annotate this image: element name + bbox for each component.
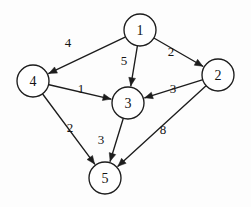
node-label-4: 4 <box>30 74 37 89</box>
node-label-5: 5 <box>102 171 109 186</box>
arrowhead-4-to-3 <box>102 94 111 101</box>
edge-weight-4-3: 1 <box>78 81 85 96</box>
node-label-3: 3 <box>125 96 132 111</box>
graph-node-5[interactable]: 5 <box>89 162 121 194</box>
edge-weight-1-4: 4 <box>65 35 72 50</box>
edge-weight-2-5: 8 <box>160 122 167 137</box>
graph-node-2[interactable]: 2 <box>202 59 234 91</box>
node-label-2: 2 <box>215 68 222 83</box>
edge-1-to-4 <box>49 37 125 73</box>
arrowhead-2-to-3 <box>145 92 154 98</box>
graph-node-4[interactable]: 4 <box>17 65 49 97</box>
graph-node-3[interactable]: 3 <box>112 87 144 119</box>
arrowhead-1-to-2 <box>194 59 203 66</box>
arrowhead-3-to-5 <box>109 153 116 162</box>
node-label-1: 1 <box>137 23 144 38</box>
arrowhead-1-to-3 <box>129 77 136 85</box>
edge-weight-4-5: 2 <box>67 120 74 135</box>
edge-weight-3-5: 3 <box>98 132 105 147</box>
edge-weight-1-2: 2 <box>168 44 175 59</box>
graph-diagram: 12345 42513238 <box>0 0 251 207</box>
edge-1-to-2 <box>154 38 203 66</box>
graph-node-1[interactable]: 1 <box>124 14 156 46</box>
edge-weight-2-3: 3 <box>170 81 177 96</box>
edge-weight-1-3: 5 <box>121 53 128 68</box>
arrowhead-4-to-5 <box>87 156 95 164</box>
graph-canvas: 12345 42513238 <box>0 0 251 207</box>
arrowhead-1-to-4 <box>49 67 58 74</box>
